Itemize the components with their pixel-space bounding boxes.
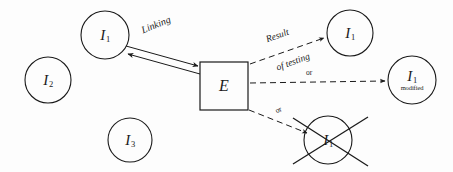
diagram-vector-layer	[0, 0, 453, 172]
edge-or-modified-line	[250, 81, 385, 83]
node-i2-left-circle	[25, 57, 71, 103]
node-i1-top-left-circle	[81, 11, 129, 59]
node-i3-bottom-left-circle	[108, 118, 152, 162]
diagram-canvas: I1 I2 I3 E I1 I1 modified I1 Linking Res…	[0, 0, 453, 172]
node-i1-top-right-circle	[327, 10, 373, 56]
node-i1-modified-circle	[388, 56, 436, 104]
node-e-box-rect	[200, 62, 248, 110]
edge-result-of-testing-line	[250, 38, 324, 64]
